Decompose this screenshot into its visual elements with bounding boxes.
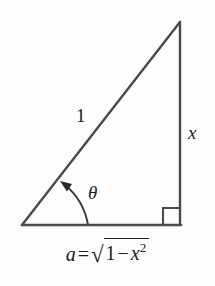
angle-theta-label: θ xyxy=(88,183,97,202)
caption-variable-a: a xyxy=(66,243,76,265)
radicand-first-term: 1 xyxy=(106,242,116,264)
caption-radical: √1−x2 xyxy=(91,239,149,267)
caption-equals-sign: = xyxy=(76,243,91,265)
radical-sign-icon: √ xyxy=(91,242,104,267)
opposite-side-label: x xyxy=(188,123,196,142)
trig-figure: 1 x θ a=√1−x2 xyxy=(0,0,215,286)
radicand-exponent: 2 xyxy=(140,240,147,255)
caption-radicand: 1−x2 xyxy=(104,238,150,265)
figure-caption: a=√1−x2 xyxy=(0,239,215,267)
right-angle-marker xyxy=(163,208,180,225)
hypotenuse-label: 1 xyxy=(76,106,86,125)
angle-arc xyxy=(65,185,89,226)
radicand-minus-sign: − xyxy=(116,242,131,264)
radicand-variable-x: x xyxy=(131,242,140,264)
hypotenuse-line xyxy=(22,22,180,225)
